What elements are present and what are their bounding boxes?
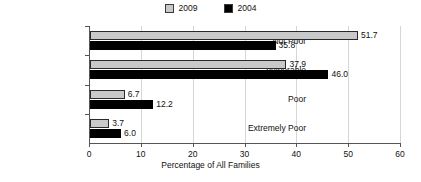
- x-tick-mark: [245, 143, 246, 147]
- x-tick-mark: [400, 143, 401, 147]
- legend-item-2004: 2004: [224, 4, 257, 13]
- y-tick-mark: [85, 114, 89, 115]
- legend-label-2009: 2009: [179, 4, 198, 13]
- x-gridline: [400, 26, 401, 143]
- bar-2004-not-poor: [90, 41, 276, 50]
- y-tick-mark: [85, 55, 89, 56]
- x-tick-label: 40: [292, 149, 301, 159]
- x-tick-label: 0: [87, 149, 92, 159]
- bar-value-label: 3.7: [112, 118, 124, 128]
- x-tick-label: 60: [395, 149, 404, 159]
- category-label-extremely-poor: Extremely Poor: [248, 123, 306, 133]
- x-tick-mark: [193, 143, 194, 147]
- poverty-bar-chart: 2009 2004 Level of Poverty 0102030405060…: [0, 0, 421, 182]
- x-tick-mark: [89, 143, 90, 147]
- plot-area: 0102030405060 Not PoorVulnerablePoorExtr…: [89, 26, 400, 143]
- bar-value-label: 12.2: [156, 99, 173, 109]
- x-tick-label: 10: [136, 149, 145, 159]
- bar-2004-extremely-poor: [90, 129, 121, 138]
- bar-2009-extremely-poor: [90, 119, 109, 128]
- bar-value-label: 6.7: [128, 89, 140, 99]
- y-tick-mark: [85, 26, 89, 27]
- bar-2009-poor: [90, 90, 125, 99]
- x-tick-label: 50: [343, 149, 352, 159]
- x-axis-title: Percentage of All Families: [0, 160, 421, 170]
- legend-swatch-2009-icon: [165, 4, 174, 13]
- legend-swatch-2004-icon: [224, 4, 233, 13]
- chart-legend: 2009 2004: [0, 4, 421, 13]
- bar-2004-poor: [90, 100, 153, 109]
- bar-value-label: 35.8: [279, 40, 296, 50]
- bar-value-label: 46.0: [331, 69, 348, 79]
- x-gridline: [348, 26, 349, 143]
- bar-value-label: 37.9: [289, 59, 306, 69]
- bar-value-label: 51.7: [361, 30, 378, 40]
- legend-item-2009: 2009: [165, 4, 198, 13]
- legend-label-2004: 2004: [238, 4, 257, 13]
- bar-value-label: 6.0: [124, 128, 136, 138]
- bar-2004-vulnerable: [90, 70, 328, 79]
- bar-2009-not-poor: [90, 31, 358, 40]
- category-label-poor: Poor: [288, 94, 306, 104]
- x-tick-label: 30: [240, 149, 249, 159]
- x-tick-mark: [141, 143, 142, 147]
- bar-2009-vulnerable: [90, 60, 286, 69]
- x-tick-label: 20: [188, 149, 197, 159]
- x-tick-mark: [348, 143, 349, 147]
- x-tick-mark: [296, 143, 297, 147]
- y-tick-mark: [85, 85, 89, 86]
